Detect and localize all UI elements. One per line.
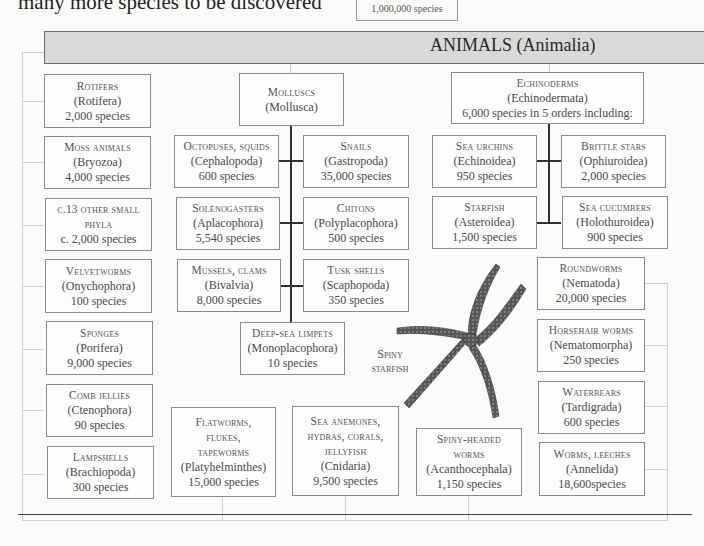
class-box-asteroidea: Starfish (Asteroidea) 1,500 species bbox=[432, 196, 537, 249]
phylum-name: Waterbears bbox=[562, 385, 621, 400]
phylum-name: c.13 other small phyla bbox=[54, 202, 144, 232]
class-latin: (Aplacophora) bbox=[193, 216, 263, 231]
phylum-latin: (Bryozoa) bbox=[73, 155, 122, 170]
phylum-box-acanthocephala: Spiny-headed worms (Acanthocephala) 1,15… bbox=[416, 428, 522, 496]
stub-left-2 bbox=[22, 225, 44, 226]
species-count: 600 species bbox=[564, 415, 620, 430]
bottom-trunk-line bbox=[22, 520, 668, 521]
class-box-bivalvia: Mussels, clams (Bivalvia) 8,000 species bbox=[177, 259, 281, 312]
class-name: Starfish bbox=[464, 200, 505, 215]
class-name: Brittle stars bbox=[581, 139, 646, 154]
class-latin: (Cephalopoda) bbox=[191, 154, 262, 169]
phylum-name: Moss animals bbox=[64, 140, 131, 155]
kingdom-summary-box: 1,000,000 species bbox=[356, 0, 458, 21]
phylum-box-small-phyla: c.13 other small phyla c. 2,000 species bbox=[45, 198, 152, 251]
right-trunk-line bbox=[667, 283, 668, 520]
stub-bottom-1 bbox=[345, 496, 346, 520]
species-count: 20,000 species bbox=[556, 291, 627, 306]
class-name: Deep-sea limpets bbox=[252, 326, 333, 341]
phylum-name: Horsehair worms bbox=[549, 323, 633, 338]
phylum-latin: (Mollusca) bbox=[265, 100, 318, 115]
echinoderms-stub bbox=[549, 64, 550, 72]
species-count: 500 species bbox=[328, 231, 384, 246]
phylum-box-onychophora: Velvetworms (Onychophora) 100 species bbox=[45, 259, 152, 313]
species-count: 100 species bbox=[71, 294, 127, 309]
phylum-box-porifera: Sponges (Porifera) 9,000 species bbox=[46, 321, 153, 375]
class-latin: (Gastropoda) bbox=[324, 154, 387, 169]
class-latin: (Scaphopoda) bbox=[323, 278, 390, 293]
phylum-latin: (Cnidaria) bbox=[321, 459, 370, 474]
phylum-name: Roundworms bbox=[559, 261, 622, 276]
species-count: 1,500 species bbox=[452, 230, 517, 245]
class-box-ophiuroidea: Brittle stars (Ophiuroidea) 2,000 specie… bbox=[561, 135, 666, 188]
phylum-name: Worms, leeches bbox=[553, 447, 630, 462]
class-name: Mussels, clams bbox=[191, 263, 266, 278]
species-count: 9,500 species bbox=[313, 474, 378, 489]
class-latin: (Echinoidea) bbox=[454, 154, 516, 169]
class-name: Tusk shells bbox=[327, 263, 384, 278]
phylum-box-tardigrada: Waterbears (Tardigrada) 600 species bbox=[538, 381, 645, 434]
class-box-monoplacophora: Deep-sea limpets (Monoplacophora) 10 spe… bbox=[240, 322, 345, 375]
class-box-echinoidea: Sea urchins (Echinoidea) 950 species bbox=[432, 135, 537, 188]
phylum-latin: (Rotifera) bbox=[74, 94, 121, 109]
phylum-box-platyhelminthes: Flatworms, flukes, tapeworms (Platyhelmi… bbox=[171, 407, 276, 497]
phylum-latin: (Tardigrada) bbox=[562, 400, 622, 415]
stub-right-2 bbox=[645, 406, 667, 407]
species-count: 9,000 species bbox=[67, 356, 132, 371]
species-count: c. 2,000 species bbox=[61, 232, 137, 247]
stub-left-5 bbox=[22, 410, 44, 411]
species-count: 600 species bbox=[199, 169, 255, 184]
class-name: Snails bbox=[340, 139, 371, 154]
species-count: 4,000 species bbox=[65, 170, 130, 185]
stub-left-0 bbox=[22, 101, 44, 102]
class-name: Sea cucumbers bbox=[579, 200, 651, 215]
species-count: 950 species bbox=[457, 169, 513, 184]
echinoderms-spine bbox=[548, 124, 550, 222]
class-latin: (Monoplacophora) bbox=[248, 341, 338, 356]
species-count: 2,000 species bbox=[65, 109, 130, 124]
left-stub-top bbox=[22, 52, 44, 53]
phylum-name: Molluscs bbox=[268, 85, 315, 100]
stub-left-6 bbox=[22, 474, 44, 475]
phylum-name: Flatworms, flukes, tapeworms bbox=[184, 415, 264, 460]
species-count: 900 species bbox=[587, 230, 643, 245]
stub-right-3 bbox=[645, 469, 667, 470]
phylum-latin: (Platyhelminthes) bbox=[181, 460, 266, 475]
molluscs-branch-1 bbox=[279, 160, 303, 162]
phylum-box-echinodermata: Echinoderms (Echinodermata) 6,000 specie… bbox=[451, 72, 644, 124]
phylum-name: Sea anemones, hydras, corals, jellyfish bbox=[296, 414, 396, 459]
phylum-box-nematoda: Roundworms (Nematoda) 20,000 species bbox=[537, 257, 645, 310]
molluscs-branch-3 bbox=[279, 285, 303, 287]
stub-right-1 bbox=[645, 345, 667, 346]
phylum-name: Echinoderms bbox=[516, 76, 578, 91]
starfish-caption: Spiny starfish bbox=[360, 347, 420, 375]
species-count: 350 species bbox=[328, 293, 384, 308]
phylum-box-brachiopoda: Lampshells (Brachiopoda) 300 species bbox=[47, 446, 154, 499]
phylum-latin: (Nematoda) bbox=[562, 276, 619, 291]
species-count: 18,600species bbox=[558, 477, 626, 492]
class-name: Octopuses, squids bbox=[183, 139, 269, 154]
phylum-box-bryozoa: Moss animals (Bryozoa) 4,000 species bbox=[44, 136, 151, 189]
phylum-name: Velvetworms bbox=[66, 264, 131, 279]
species-count: 6,000 species in 5 orders including: bbox=[462, 106, 633, 121]
class-box-scaphopoda: Tusk shells (Scaphopoda) 350 species bbox=[303, 259, 409, 312]
phylum-latin: (Brachiopoda) bbox=[66, 465, 135, 480]
species-count: 15,000 species bbox=[188, 475, 259, 490]
phylum-box-rotifers: Rotifers (Rotifera) 2,000 species bbox=[44, 74, 151, 128]
phylum-name: Spiny-headed worms bbox=[429, 432, 509, 462]
phylum-box-nematomorpha: Horsehair worms (Nematomorpha) 250 speci… bbox=[537, 319, 645, 372]
species-count: 8,000 species bbox=[197, 293, 262, 308]
species-count: 2,000 species bbox=[581, 169, 646, 184]
molluscs-branch-2 bbox=[279, 222, 303, 224]
class-latin: (Bivalvia) bbox=[205, 278, 254, 293]
stub-bottom-0 bbox=[222, 497, 223, 520]
class-name: Chitons bbox=[337, 201, 375, 216]
class-box-polyplacophora: Chitons (Polyplacophora) 500 species bbox=[303, 197, 409, 250]
phylum-latin: (Annelida) bbox=[566, 462, 618, 477]
class-box-holothuroidea: Sea cucumbers (Holothuroidea) 900 specie… bbox=[562, 196, 668, 249]
phylum-box-annelida: Worms, leeches (Annelida) 18,600species bbox=[539, 442, 645, 496]
phylum-name: Lampshells bbox=[73, 450, 129, 465]
species-count: 250 species bbox=[563, 353, 619, 368]
species-count: 300 species bbox=[73, 480, 129, 495]
stub-left-4 bbox=[22, 349, 44, 350]
